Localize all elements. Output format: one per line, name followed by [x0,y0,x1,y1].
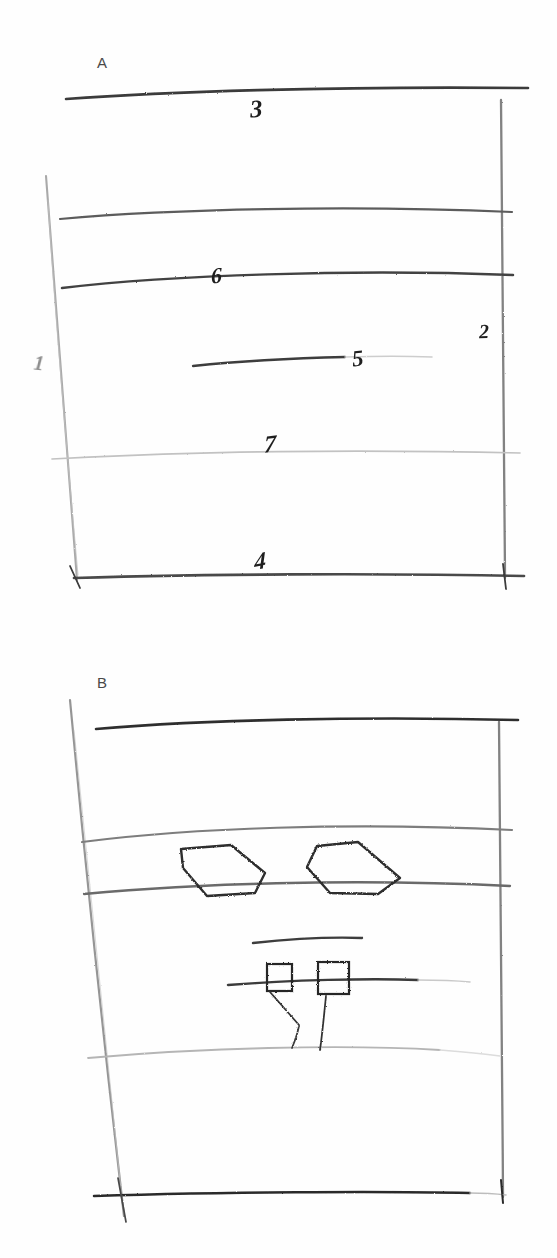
panel-a-stratum-top [66,88,528,99]
leader-line-right [320,996,326,1050]
panel-b-stratum-bottom [94,1192,470,1196]
hexagon-left-shape [181,845,265,896]
hexagon-right-shape [307,842,400,894]
leader-line-left-tail [292,1026,299,1048]
panel-a-segment-middle [193,357,345,366]
panel-b-stratum-top [96,718,518,729]
panel-a-group [46,88,528,589]
ref-numeral-6: 6 [211,264,223,288]
ref-numeral-7: 7 [264,431,276,457]
panel-b-band-lower [84,882,510,894]
panel-a-stratum-bottom [74,574,524,578]
panel-b-square-baseline [228,979,418,985]
panel-b-corner-tick-left [118,1178,126,1222]
ref-numeral-4: 4 [254,548,267,575]
panel-b-band-upper [82,826,512,842]
panel-b-stratum-bottom-fade [470,1193,506,1195]
panel-a-stratum-third [62,273,513,288]
ref-numeral-3: 3 [249,96,263,122]
figure-root: A B 3 6 5 7 4 2 1 [0,0,557,1258]
panel-b-segment-upper [253,938,362,943]
leader-line-left [270,992,299,1025]
panel-b-left-border-shadow [74,730,122,1200]
square-left-shape [267,964,292,991]
square-right-shape [318,962,349,994]
panel-b-stratum-faint-tail [440,1050,500,1056]
ref-numeral-1: 1 [33,353,45,374]
sketch-canvas [0,0,557,1258]
panel-b-square-baseline-fade [418,980,470,982]
panel-a-stratum-faint [52,451,520,459]
panel-b-stratum-faint [88,1047,440,1058]
panel-b-squares [267,962,349,1050]
panel-a-label: A [97,54,108,71]
panel-b-group [70,700,518,1222]
panel-a-stratum-second [60,208,512,219]
panel-a-right-border [501,100,505,578]
ref-numeral-2: 2 [479,321,490,341]
panel-b-label: B [97,674,108,691]
ref-numeral-5: 5 [351,346,365,370]
panel-b-right-border [499,722,503,1197]
panel-b-hexagons [181,842,400,896]
